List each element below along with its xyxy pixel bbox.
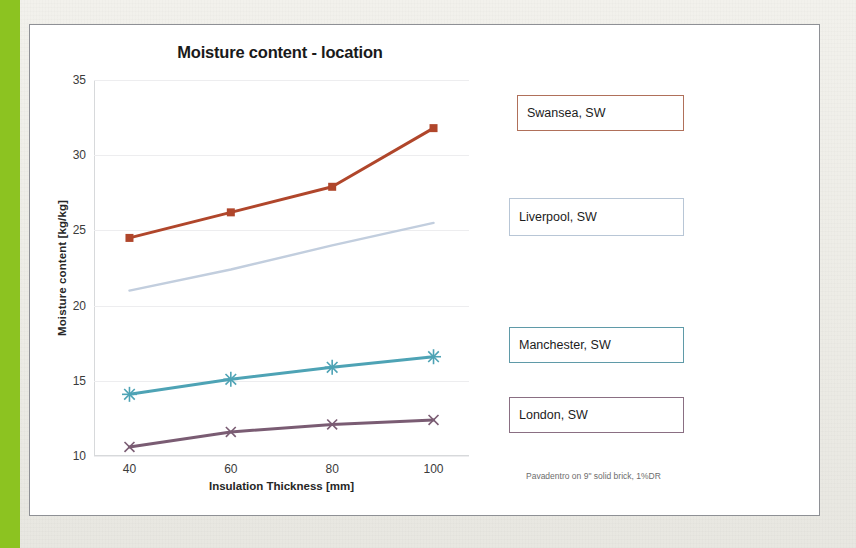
x-axis-label: Insulation Thickness [mm] [94, 480, 469, 492]
y-axis-tick-label: 25 [73, 223, 86, 237]
legend-item-liverpool[interactable]: Liverpool, SW [509, 198, 684, 236]
legend-item-swansea[interactable]: Swansea, SW [517, 95, 684, 131]
chart-annotation: Pavadentro on 9" solid brick, 1%DR [526, 471, 661, 481]
y-axis-tick-label: 20 [73, 299, 86, 313]
series-london [125, 415, 439, 452]
gridline [94, 456, 469, 457]
data-point-marker [125, 234, 133, 242]
data-point-marker [328, 183, 336, 191]
series-liverpool [129, 223, 433, 291]
y-axis-tick-label: 10 [73, 449, 86, 463]
y-axis-label-text: Moisture content [kg/kg] [56, 200, 68, 336]
series-line [129, 128, 433, 238]
slide-root: Moisture content - location Moisture con… [0, 0, 856, 548]
x-axis-tick-label: 100 [424, 462, 444, 476]
chart-title: Moisture content - location [30, 43, 530, 62]
series-line [129, 420, 433, 447]
legend-item-manchester[interactable]: Manchester, SW [509, 327, 684, 363]
y-axis-label: Moisture content [kg/kg] [54, 80, 70, 456]
chart: Moisture content - location Moisture con… [30, 25, 821, 517]
data-point-marker [430, 124, 438, 132]
series-line [129, 357, 433, 395]
x-axis-tick-label: 80 [325, 462, 338, 476]
series-swansea [125, 124, 437, 242]
y-axis-tick-label: 30 [73, 148, 86, 162]
series-line [129, 223, 433, 291]
legend-item-london[interactable]: London, SW [509, 397, 684, 433]
data-point-marker [227, 208, 235, 216]
plot-area: 101520253035 406080100 [94, 80, 469, 456]
y-axis-tick-label: 35 [73, 73, 86, 87]
x-axis-tick-label: 60 [224, 462, 237, 476]
accent-bar [0, 0, 20, 548]
x-axis-tick-label: 40 [123, 462, 136, 476]
series-manchester [122, 349, 441, 402]
plot-series-svg [94, 80, 469, 456]
y-axis-tick-label: 15 [73, 374, 86, 388]
slide-card: Moisture content - location Moisture con… [29, 24, 820, 516]
